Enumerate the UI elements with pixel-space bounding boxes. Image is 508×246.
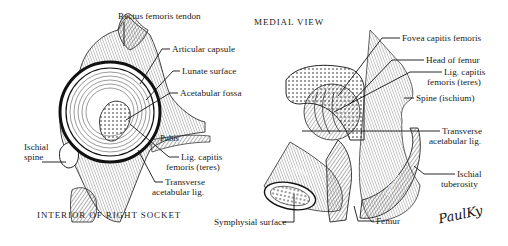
- label-transverse-right-1: Transverse: [442, 126, 482, 136]
- label-spine-ischium: Spine (ischium): [416, 93, 474, 103]
- label-ischial-tuberosity-1: Ischial: [457, 169, 482, 179]
- label-ischial-spine-2: spine: [24, 152, 43, 162]
- caption-interior-of-right-socket: INTERIOR OF RIGHT SOCKET: [37, 210, 181, 220]
- label-articular-capsule: Articular capsule: [172, 44, 235, 54]
- label-transverse-left-2: acetabular lig.: [152, 187, 204, 197]
- label-acetabular-fossa: Acetabular fossa: [180, 88, 241, 98]
- caption-medial-view: MEDIAL VIEW: [254, 17, 324, 27]
- label-fovea-capitis-femoris: Fovea capitis femoris: [402, 33, 481, 43]
- label-symphysial-surface: Symphysial surface: [214, 217, 286, 227]
- label-rectus-femoris-tendon: Rectus femoris tendon: [118, 11, 201, 21]
- label-lig-capitis-right-1: Lig. capitis: [444, 67, 485, 77]
- label-femur: Femur: [376, 216, 400, 226]
- label-lig-capitis-left-1: Lig. capitis: [181, 152, 222, 162]
- label-pubis-left: Pubis: [160, 133, 179, 143]
- label-lig-capitis-right-2: femoris (teres): [427, 77, 481, 87]
- label-ischial-spine-1: Ischial: [24, 142, 49, 152]
- label-lig-capitis-left-2: femoris (teres): [166, 162, 220, 172]
- label-transverse-right-2: acetabular lig.: [429, 136, 481, 146]
- label-head-of-femur: Head of femur: [426, 55, 480, 65]
- label-ischial-tuberosity-2: tuberosity: [441, 179, 478, 189]
- right-medial-drawing: [262, 30, 420, 222]
- label-transverse-left-1: Transverse: [165, 177, 205, 187]
- label-lunate-surface: Lunate surface: [182, 66, 236, 76]
